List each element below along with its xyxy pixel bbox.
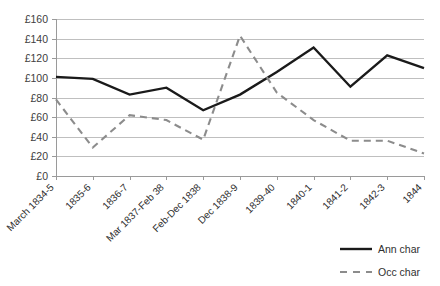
x-axis-tick-label: Dec 1838-9 [196,181,241,226]
data-series [56,36,424,154]
y-axis-tick-label: £20 [30,150,48,162]
x-axis-tick-label: 1842-3 [357,181,387,211]
x-axis-tick-labels: March 1834-51835-61836-7Mar 1837-Feb 38F… [5,176,425,244]
x-axis-tick-label: 1844 [400,181,424,205]
x-axis-tick-label: 1839-40 [243,181,277,215]
x-axis-tick-label: 1841-2 [320,181,350,211]
axes [56,19,424,177]
x-axis-tick-label: 1835-6 [63,181,93,211]
chart-legend: Ann charOcc char [340,243,421,278]
legend-label-ann-char: Ann char [378,243,421,255]
y-axis-tick-label: £140 [25,33,49,45]
y-axis-tick-label: £100 [25,72,49,84]
x-axis-tick-label: 1836-7 [100,181,130,211]
y-axis-tick-labels: £160£140£120£100£80£60£40£20£0 [25,13,56,182]
y-axis-tick-label: £80 [30,92,48,104]
y-axis-tick-label: £120 [25,52,49,64]
y-axis-tick-label: £40 [30,131,48,143]
legend-label-occ-char: Occ char [378,266,421,278]
chart-container: £160£140£120£100£80£60£40£20£0 March 183… [0,0,440,286]
y-axis-tick-label: £160 [25,13,49,25]
x-axis-tick-label: 1840-1 [284,181,314,211]
y-axis-tick-label: £0 [36,170,48,182]
x-axis-tick-label: March 1834-5 [5,181,57,233]
y-axis-tick-label: £60 [30,111,48,123]
gridlines [56,20,424,177]
line-chart: £160£140£120£100£80£60£40£20£0 March 183… [0,0,440,286]
